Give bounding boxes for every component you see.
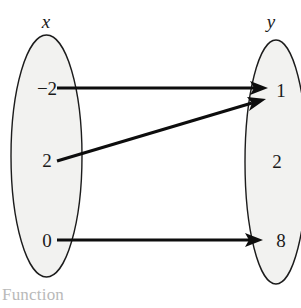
range-element-2: 8 (276, 230, 286, 251)
range-element-0: 1 (276, 80, 286, 101)
mapping-arrow-neg2-to-1 (57, 81, 268, 95)
diagram-caption: Function (2, 285, 64, 305)
range-set-label: y (265, 11, 276, 32)
domain-set-label: x (41, 11, 51, 32)
mapping-diagram: x y −2 2 0 1 2 8 (0, 0, 301, 308)
mapping-arrow-0-to-8 (57, 233, 263, 247)
domain-element-1: 2 (42, 150, 52, 171)
domain-element-0: −2 (37, 78, 57, 99)
range-element-1: 2 (272, 151, 282, 172)
mapping-arrow-2-to-1 (57, 97, 266, 161)
domain-element-2: 0 (42, 230, 52, 251)
